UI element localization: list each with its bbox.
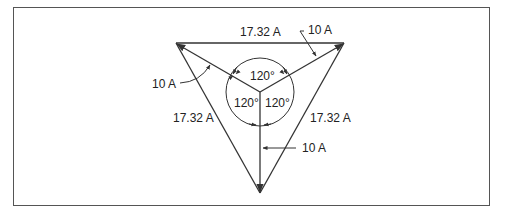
label-angle-left: 120°: [234, 97, 259, 109]
label-right-side: 17.32 A: [310, 112, 351, 124]
label-phasor-top-right: 10 A: [308, 24, 332, 36]
label-top-side: 17.32 A: [240, 26, 281, 38]
label-phasor-bottom: 10 A: [302, 142, 326, 154]
label-left-side: 17.32 A: [173, 112, 214, 124]
leader-left: [180, 65, 210, 83]
label-angle-top: 120°: [250, 70, 275, 82]
label-angle-right: 120°: [265, 97, 290, 109]
label-phasor-left: 10 A: [152, 78, 176, 90]
